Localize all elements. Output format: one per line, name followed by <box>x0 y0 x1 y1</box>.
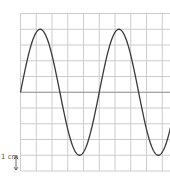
wave-diagram <box>0 0 170 179</box>
scale-label: 1 cm <box>1 153 18 161</box>
